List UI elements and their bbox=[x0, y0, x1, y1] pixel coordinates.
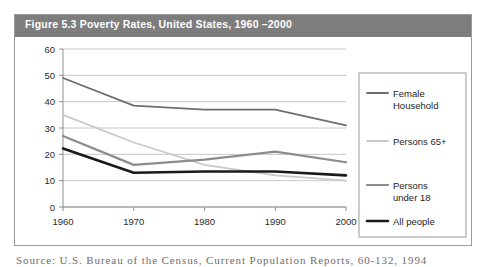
data-series-group bbox=[63, 78, 346, 181]
y-tick-label: 20 bbox=[44, 149, 55, 160]
x-tick-label: 1970 bbox=[123, 216, 144, 227]
legend-label: Household bbox=[393, 100, 438, 111]
y-tick-labels-group: 0102030405060 bbox=[44, 44, 63, 213]
y-tick-label: 30 bbox=[44, 123, 55, 134]
y-tick-label: 0 bbox=[50, 202, 55, 213]
y-tick-label: 10 bbox=[44, 175, 55, 186]
x-tick-labels-group: 19601970198019902000 bbox=[52, 207, 356, 227]
y-tick-label: 50 bbox=[44, 70, 55, 81]
legend-label: Female bbox=[393, 88, 425, 99]
chart-plot-area: 0102030405060 19601970198019902000 Femal… bbox=[15, 37, 471, 246]
legend-label: under 18 bbox=[393, 192, 431, 203]
poverty-rates-line-chart: 0102030405060 19601970198019902000 Femal… bbox=[15, 37, 471, 246]
x-tick-label: 1980 bbox=[194, 216, 215, 227]
legend-label: Persons 65+ bbox=[393, 136, 447, 147]
figure-container: Figure 5.3 Poverty Rates, United States,… bbox=[14, 14, 472, 246]
chart-legend: FemaleHouseholdPersons 65+Personsunder 1… bbox=[359, 73, 466, 237]
y-tick-label: 40 bbox=[44, 96, 55, 107]
figure-title-band: Figure 5.3 Poverty Rates, United States,… bbox=[15, 15, 471, 37]
x-tick-label: 1960 bbox=[52, 216, 73, 227]
legend-label: Persons bbox=[393, 180, 428, 191]
gridlines-group bbox=[63, 49, 346, 207]
x-tick-label: 2000 bbox=[335, 216, 356, 227]
figure-title: Figure 5.3 Poverty Rates, United States,… bbox=[25, 18, 292, 30]
legend-label: All people bbox=[393, 216, 435, 227]
x-tick-label: 1990 bbox=[265, 216, 286, 227]
source-note: Source: U.S. Bureau of the Census, Curre… bbox=[16, 254, 476, 267]
series-line bbox=[63, 136, 346, 165]
y-tick-label: 60 bbox=[44, 44, 55, 55]
